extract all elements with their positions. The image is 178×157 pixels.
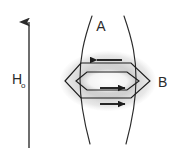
field-label-subscript: o [21, 81, 26, 90]
figure-canvas: H o A B [0, 0, 178, 157]
field-lines-label: A [96, 18, 106, 34]
ring-label: B [158, 74, 167, 90]
physics-figure: H o A B [0, 0, 178, 157]
